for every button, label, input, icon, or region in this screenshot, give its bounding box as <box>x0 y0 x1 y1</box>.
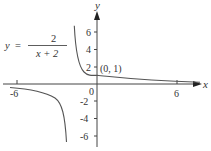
y-tick-label: -2 <box>80 96 88 107</box>
curve-left-branch <box>10 88 67 143</box>
y-tick-label: 4 <box>86 44 91 55</box>
y-tick-label: -6 <box>80 131 88 142</box>
y-tick-label: 6 <box>86 27 91 38</box>
x-tick-label: 6 <box>174 88 179 99</box>
svg-text:2: 2 <box>51 33 56 44</box>
equation-label: y = 2 x + 2 <box>4 33 67 59</box>
y-axis-label: y <box>94 0 100 11</box>
svg-text:=: = <box>15 40 21 51</box>
x-tick-label: -6 <box>10 88 18 99</box>
svg-text:y: y <box>4 40 10 51</box>
y-axis-arrow-icon <box>94 11 100 20</box>
origin-label: 0 <box>89 86 94 97</box>
point-annotation: (0, 1) <box>100 63 122 75</box>
svg-text:x + 2: x + 2 <box>35 48 59 59</box>
function-graph: x y -6 6 6 4 2 -2 -4 -6 0 (0, 1) y = 2 x… <box>0 0 211 151</box>
y-tick-label: -4 <box>80 113 88 124</box>
y-tick-label: 2 <box>86 62 91 73</box>
x-axis-label: x <box>202 78 208 90</box>
curve-right-branch <box>74 26 200 82</box>
